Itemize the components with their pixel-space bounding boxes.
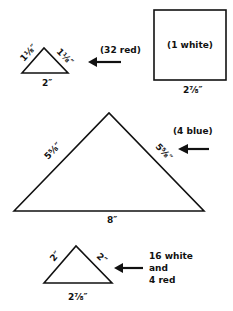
large-triangle-base-label: 8″ <box>107 215 117 225</box>
medium-triangle-quantity-line-1: 16 white <box>149 251 193 261</box>
small-triangle-base-label: 2″ <box>42 78 52 88</box>
small-triangle-piece: 1⅛″ 1⅛″ 2″ <box>18 42 75 88</box>
small-triangle-arrow <box>88 57 121 67</box>
arrowhead-icon <box>178 144 188 154</box>
medium-triangle-quantity-line-3: 4 red <box>149 275 175 285</box>
large-triangle-quantity-note: (4 blue) <box>173 126 213 136</box>
large-triangle-left-label: 5⅝″ <box>42 140 63 161</box>
square-piece: (1 white) 2⅞″ <box>154 10 226 95</box>
medium-triangle-base-label: 2⅞″ <box>68 292 88 302</box>
large-triangle-arrow <box>178 144 209 154</box>
arrowhead-icon <box>88 57 97 67</box>
large-triangle-right-label: 5⅝″ <box>154 141 175 162</box>
medium-triangle-piece: 2″ 2″ 2⅞″ <box>44 246 112 302</box>
quilt-pattern-diagram: 1⅛″ 1⅛″ 2″ (32 red) (1 white) 2⅞″ 5⅝″ 5⅝… <box>0 0 233 311</box>
medium-triangle-left-label: 2″ <box>48 249 62 263</box>
arrowhead-icon <box>114 263 123 273</box>
medium-triangle-arrow <box>114 263 143 273</box>
square-base-label: 2⅞″ <box>183 85 203 95</box>
small-triangle-quantity-note: (32 red) <box>100 45 141 55</box>
small-triangle-left-label: 1⅛″ <box>18 42 39 63</box>
medium-triangle-quantity-line-2: and <box>149 263 168 273</box>
small-triangle-right-label: 1⅛″ <box>55 46 76 67</box>
medium-triangle-right-label: 2″ <box>95 251 109 265</box>
square-inside-label: (1 white) <box>167 40 213 50</box>
